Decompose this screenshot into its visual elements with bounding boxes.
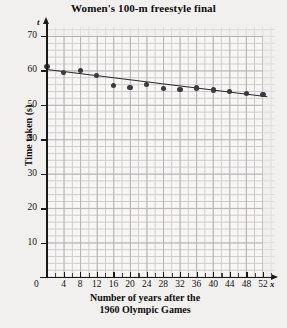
x-tick-minor: [271, 273, 272, 278]
y-tick: [41, 105, 47, 106]
data-point: [144, 82, 149, 87]
data-point: [211, 87, 216, 92]
x-tick: [213, 272, 214, 278]
y-axis-line: [46, 22, 48, 278]
y-tick: [41, 208, 47, 209]
data-point: [177, 87, 182, 92]
x-tick-minor: [205, 273, 206, 278]
data-point: [78, 68, 83, 73]
x-tick: [80, 272, 81, 278]
y-tick: [41, 36, 47, 37]
y-tick: [41, 174, 47, 175]
x-tick: [113, 272, 114, 278]
y-tick: [41, 139, 47, 140]
x-tick: [246, 272, 247, 278]
x-axis-title: Number of years after the 1960 Olympic G…: [30, 292, 260, 316]
y-tick: [41, 243, 47, 244]
x-tick-minor: [138, 273, 139, 278]
y-tick-label: 60: [7, 64, 37, 74]
x-tick-minor: [155, 273, 156, 278]
y-axis-arrow-icon: [43, 17, 49, 24]
plot-area: [47, 36, 263, 277]
y-tick-label: 10: [7, 237, 37, 247]
x-tick-minor: [72, 273, 73, 278]
x-tick-minor: [172, 273, 173, 278]
y-tick: [41, 70, 47, 71]
x-tick: [263, 272, 264, 278]
data-point: [194, 85, 199, 90]
y-axis-variable: t: [37, 17, 40, 27]
data-point: [61, 70, 66, 75]
x-tick: [130, 272, 131, 278]
data-point: [161, 86, 166, 91]
y-tick-label: 70: [7, 30, 37, 40]
x-tick: [180, 272, 181, 278]
x-tick-label: 52: [252, 279, 274, 289]
x-tick-minor: [122, 273, 123, 278]
data-point: [111, 83, 116, 88]
x-tick-minor: [221, 273, 222, 278]
x-tick: [230, 272, 231, 278]
x-tick-minor: [188, 273, 189, 278]
data-point: [244, 91, 249, 96]
data-point: [127, 85, 132, 90]
x-axis-title-line1: Number of years after the: [90, 292, 200, 303]
x-tick: [64, 272, 65, 278]
x-tick: [197, 272, 198, 278]
x-tick: [163, 272, 164, 278]
data-point: [260, 92, 265, 97]
x-tick-minor: [89, 273, 90, 278]
x-tick-minor: [105, 273, 106, 278]
x-tick: [147, 272, 148, 278]
x-axis-title-line2: 1960 Olympic Games: [99, 304, 190, 315]
x-tick: [97, 272, 98, 278]
x-tick-minor: [238, 273, 239, 278]
origin-label: 0: [34, 279, 39, 289]
chart-title: Women's 100-m freestyle final: [0, 2, 287, 14]
y-axis-title: Time taken (s): [23, 76, 34, 196]
x-tick-minor: [55, 273, 56, 278]
chart-figure: Women's 100-m freestyle final t x 010203…: [0, 0, 287, 328]
y-tick-label: 20: [7, 202, 37, 212]
x-tick-minor: [255, 273, 256, 278]
